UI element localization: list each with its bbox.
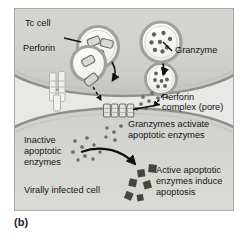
label-inactive-line2: apoptotic [24,146,61,157]
label-granzymes-activate-line2: apoptotic enzymes [128,130,205,141]
arrow [163,64,164,75]
granzyme-vesicle-fusing [146,64,177,95]
label-perforin: Perforin [23,43,55,54]
label-granzymes-activate-line1: Granzymes activate [128,119,209,130]
diagram-panel: Tc cell Perforin Granzyme Perforin compl… [14,8,234,211]
label-active-line1: Active apoptotic [156,165,221,176]
label-virally-infected-cell: Virally infected cell [24,185,100,196]
label-active-line2: enzymes induce [156,176,222,187]
label-perforin-complex-line1: Perforin [162,92,194,103]
label-tc-cell: Tc cell [25,18,51,29]
label-inactive-line1: Inactive [24,135,56,146]
label-perforin-complex-line2: complex (pore) [162,102,223,113]
label-granzyme: Granzyme [175,45,217,56]
label-active-line3: apoptosis [156,187,195,198]
panel-caption: (b) [14,216,28,228]
tcr-receptor-stem [54,95,61,111]
granzyme-vesicle [141,22,181,62]
figure-root: Tc cell Perforin Granzyme Perforin compl… [0,0,240,240]
label-inactive-line3: enzymes [24,157,61,168]
